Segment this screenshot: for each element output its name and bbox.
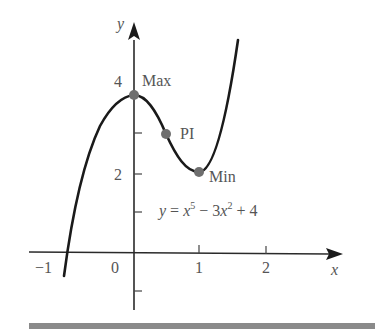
min-label: Min: [209, 169, 236, 185]
x-tick-label-1: 1: [195, 260, 203, 276]
x-tick-label-0: 0: [111, 260, 119, 276]
y-axis-arrow-icon: [128, 22, 140, 40]
max-point: [129, 90, 139, 100]
equation-mid: − 3: [195, 202, 220, 219]
x-tick-label-2: 2: [262, 260, 270, 276]
pi-label: PI: [180, 126, 194, 142]
inflection-point: [161, 129, 171, 139]
x-tick-label-neg1: −1: [35, 260, 52, 276]
y-tick-label-2: 2: [114, 167, 122, 183]
y-tick-label-4: 4: [114, 74, 122, 90]
bottom-divider-bar: [29, 323, 375, 329]
graph-canvas: [0, 0, 375, 329]
x-axis-label: x: [331, 262, 338, 278]
function-graph-figure: y x −1 0 1 2 2 4 Max PI Min y = x5 − 3x2…: [0, 0, 375, 329]
equation-tail: + 4: [232, 202, 257, 219]
equation-label: y = x5 − 3x2 + 4: [159, 201, 257, 219]
y-axis-label: y: [117, 16, 124, 32]
max-label: Max: [142, 73, 171, 89]
equation-equals: =: [166, 202, 183, 219]
min-point: [194, 167, 204, 177]
x-axis: [29, 252, 330, 254]
